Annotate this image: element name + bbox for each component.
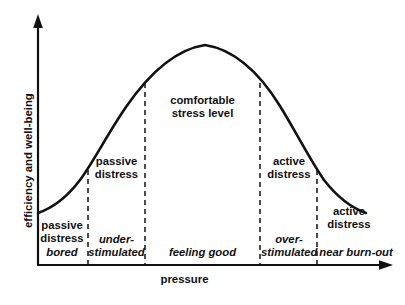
band-label-line1: comfortable	[145, 94, 260, 107]
x-axis-label-text: pressure	[160, 273, 208, 285]
zone-label-line2: stimulated	[88, 246, 145, 259]
zone-label-line1: bored	[34, 246, 90, 259]
zone-label-line1: feeling good	[145, 246, 260, 259]
y-axis-label: efficiency and well-being	[22, 28, 34, 228]
band-label-line1: active	[261, 155, 317, 168]
band-label-line1: active	[318, 205, 380, 218]
band-label-passive-distress-understim: passive distress	[88, 155, 145, 182]
zone-label-under-stimulated: under- stimulated	[88, 233, 145, 259]
zone-dividers	[0, 0, 405, 305]
x-axis-label: pressure	[0, 273, 405, 285]
y-axis-label-text: efficiency and well-being	[22, 93, 34, 228]
zone-label-line2: stimulated	[261, 246, 317, 259]
zone-label-near-burn-out: near burn-out	[318, 246, 394, 259]
zone-label-bored: bored	[34, 246, 90, 259]
band-label-line2: distress	[34, 232, 90, 245]
band-label-line2: distress	[261, 168, 317, 181]
band-label-line2: distress	[88, 168, 145, 181]
band-label-active-distress-overstim: active distress	[261, 155, 317, 182]
band-label-passive-distress-bored: passive distress	[34, 219, 90, 246]
band-label-line2: distress	[318, 218, 380, 231]
band-label-comfortable-stress-level: comfortable stress level	[145, 94, 260, 121]
band-label-line2: stress level	[145, 107, 260, 120]
zone-label-over-stimulated: over- stimulated	[261, 233, 317, 259]
band-label-active-distress-burnout: active distress	[318, 205, 380, 232]
zone-label-line1: over-	[261, 233, 317, 246]
band-label-line1: passive	[88, 155, 145, 168]
zone-label-feeling-good: feeling good	[145, 246, 260, 259]
band-label-line1: passive	[34, 219, 90, 232]
stress-performance-curve-figure: efficiency and well-being pressure passi…	[0, 0, 405, 305]
zone-label-line1: under-	[88, 233, 145, 246]
zone-label-line1: near burn-out	[318, 246, 394, 259]
